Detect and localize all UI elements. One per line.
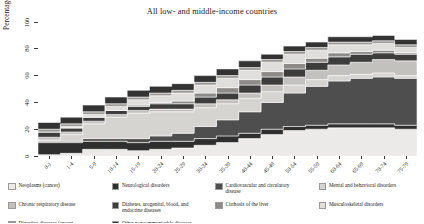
legend-item: Other noncommunicable diseases (112, 220, 214, 223)
y-axis-tick: 80 (20, 45, 38, 53)
plot-area (38, 22, 417, 156)
legend-label: Neoplasms (cancer) (19, 182, 60, 188)
legend-item: Digestive diseases (except cirrhosis) (8, 220, 110, 223)
legend-swatch (215, 202, 223, 210)
legend-label: Chronic respiratory disease (19, 201, 76, 207)
legend-swatch (112, 183, 120, 191)
y-axis-tick: 20 (20, 125, 38, 133)
y-axis-tick: 60 (20, 72, 38, 80)
y-tick-label: 60 (23, 70, 30, 82)
legend-item: Mental and behavioral disorders (319, 182, 421, 199)
legend-label: Cardiovascular and circulatory disease (226, 182, 298, 195)
chart-page: All low- and middle-income countries Per… (0, 0, 424, 223)
legend-label: Digestive diseases (except cirrhosis) (19, 220, 91, 223)
x-tick-label: 5-9 (94, 154, 104, 164)
x-tick-label: 0-1 (49, 154, 59, 164)
legend-item: Cirrhosis of the liver (215, 201, 317, 218)
legend-label: Cirrhosis of the liver (226, 201, 269, 207)
legend-swatch (112, 221, 120, 224)
legend-swatch (112, 202, 120, 210)
y-axis-ticks: 020406080100 (16, 22, 38, 156)
legend-item: Chronic respiratory disease (8, 201, 110, 218)
x-axis-ticks: 0-11-45-910-1415-1920-2425-2930-3435-394… (38, 156, 417, 180)
y-axis-tick: 0 (20, 152, 38, 160)
legend-item: Neurological disorders (112, 182, 214, 199)
legend-swatch (319, 183, 327, 191)
legend-label: Musculoskeletal disorders (329, 201, 383, 207)
legend-label: Other noncommunicable diseases (122, 220, 192, 223)
y-tick-label: 100 (23, 16, 30, 28)
stacked-area-plot (38, 22, 417, 156)
legend-swatch (215, 183, 223, 191)
legend-item: Diabetes, urogenital, blood, and endocri… (112, 201, 214, 218)
legend-swatch (8, 221, 16, 224)
legend-swatch (319, 202, 327, 210)
y-tick-label: 0 (23, 150, 30, 162)
y-axis-tick: 100 (20, 18, 38, 26)
legend-label: Mental and behavioral disorders (329, 182, 396, 188)
y-axis-label: Percentage of total DALYs (2, 0, 12, 50)
y-tick-label: 20 (23, 123, 30, 135)
y-tick-label: 80 (23, 43, 30, 55)
legend-swatch (8, 202, 16, 210)
y-axis-tick: 40 (20, 98, 38, 106)
chart-title: All low- and middle-income countries (0, 7, 424, 16)
legend-label: Diabetes, urogenital, blood, and endocri… (122, 201, 194, 214)
legend-item: Neoplasms (cancer) (8, 182, 110, 199)
chart-legend: Neoplasms (cancer)Neurological disorders… (8, 182, 420, 218)
y-tick-label: 40 (23, 96, 30, 108)
legend-item: Musculoskeletal disorders (319, 201, 421, 218)
legend-label: Neurological disorders (122, 182, 169, 188)
legend-swatch (8, 183, 16, 191)
x-tick-label: 1-4 (71, 154, 81, 164)
legend-item: Cardiovascular and circulatory disease (215, 182, 317, 199)
